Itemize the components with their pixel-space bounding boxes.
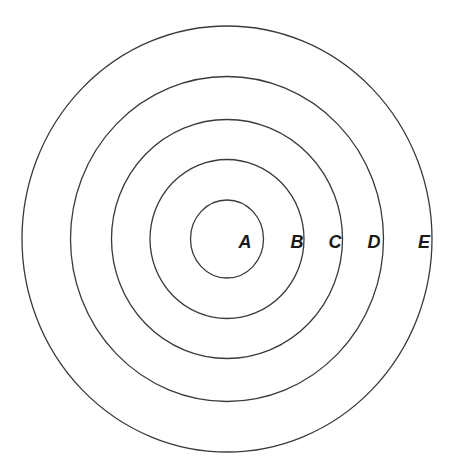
ring-label-d: D <box>368 232 381 252</box>
ring-label-a: A <box>238 232 252 252</box>
labels-group: ABCDE <box>238 232 431 252</box>
ring-c <box>112 120 343 359</box>
ring-label-b: B <box>291 232 304 252</box>
ring-label-c: C <box>329 232 343 252</box>
ring-a <box>191 200 264 278</box>
ring-label-e: E <box>418 232 431 252</box>
ring-b <box>150 160 304 319</box>
concentric-circles-diagram: ABCDE <box>0 0 450 472</box>
